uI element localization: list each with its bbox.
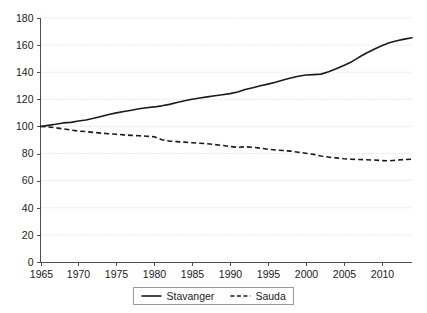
line-chart: 020406080100120140160180 196519701975198… <box>0 0 427 313</box>
x-tick-label: 2005 <box>333 268 357 280</box>
y-tick-label: 140 <box>16 66 34 78</box>
series-line-stavanger <box>41 38 413 127</box>
x-tick-label: 2000 <box>295 268 319 280</box>
x-tick-label: 2010 <box>371 268 395 280</box>
x-tick-label: 1965 <box>30 268 54 280</box>
y-axis-ticks: 020406080100120140160180 <box>16 12 41 268</box>
gridlines <box>42 18 413 235</box>
x-tick-label: 1990 <box>219 268 243 280</box>
x-tick-label: 1975 <box>105 268 129 280</box>
legend-label-sauda: Sauda <box>255 290 286 302</box>
y-tick-label: 80 <box>22 147 34 159</box>
series-line-sauda <box>41 126 413 160</box>
x-tick-label: 1980 <box>143 268 167 280</box>
x-axis-ticks: 1965197019751980198519901995200020052010 <box>30 262 395 280</box>
x-tick-label: 1985 <box>181 268 205 280</box>
legend-label-stavanger: Stavanger <box>167 290 215 302</box>
chart-legend: StavangerSauda <box>134 288 294 305</box>
y-tick-label: 180 <box>16 12 34 24</box>
y-tick-label: 100 <box>16 120 34 132</box>
y-tick-label: 0 <box>28 256 34 268</box>
y-tick-label: 40 <box>22 202 34 214</box>
y-tick-label: 160 <box>16 39 34 51</box>
y-tick-label: 20 <box>22 229 34 241</box>
x-tick-label: 1970 <box>67 268 91 280</box>
x-tick-label: 1995 <box>257 268 281 280</box>
chart-canvas: 020406080100120140160180 196519701975198… <box>0 0 427 313</box>
y-tick-label: 60 <box>22 174 34 186</box>
y-tick-label: 120 <box>16 93 34 105</box>
